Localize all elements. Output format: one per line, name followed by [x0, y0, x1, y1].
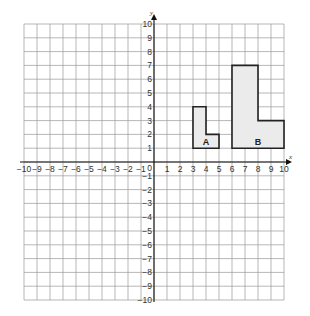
x-tick-label: 7: [243, 164, 248, 174]
origin-label: 0: [147, 163, 152, 173]
x-tick-label: 2: [178, 164, 183, 174]
x-tick-label: −10: [17, 164, 32, 174]
x-tick-label: −7: [58, 164, 68, 174]
shape-label-a: A: [203, 137, 210, 147]
coordinate-plane: AB xy −10−9−8−7−6−5−4−3−2−112345678910−1…: [0, 0, 310, 316]
x-tick-label: −6: [71, 164, 81, 174]
y-tick-label: 6: [147, 74, 152, 84]
y-tick-label: 7: [147, 60, 152, 70]
x-tick-label: 9: [269, 164, 274, 174]
x-tick-label: 5: [217, 164, 222, 174]
x-tick-label: −5: [84, 164, 94, 174]
x-tick-label: 3: [191, 164, 196, 174]
x-tick-label: −4: [97, 164, 107, 174]
x-tick-label: −9: [32, 164, 42, 174]
y-tick-label: 2: [147, 129, 152, 139]
y-tick-label: −2: [142, 185, 152, 195]
shape-label-b: B: [255, 137, 262, 147]
x-tick-label: −2: [123, 164, 133, 174]
y-tick-label: −8: [142, 267, 152, 277]
y-tick-label: 5: [147, 88, 152, 98]
y-tick-label: −4: [142, 212, 152, 222]
axes: xy: [20, 9, 293, 302]
y-tick-label: −7: [142, 254, 152, 264]
y-tick-label: 10: [143, 19, 153, 29]
x-tick-label: −3: [110, 164, 120, 174]
y-tick-label: −3: [142, 198, 152, 208]
y-tick-label: −6: [142, 240, 152, 250]
x-tick-label: 6: [230, 164, 235, 174]
x-tick-label: 8: [256, 164, 261, 174]
x-tick-label: 4: [204, 164, 209, 174]
y-tick-label: 8: [147, 47, 152, 57]
y-tick-label: −9: [142, 281, 152, 291]
x-tick-label: 10: [279, 164, 289, 174]
x-tick-label: 1: [165, 164, 170, 174]
y-tick-label: 4: [147, 102, 152, 112]
y-tick-label: 9: [147, 33, 152, 43]
y-tick-label: 1: [147, 143, 152, 153]
x-axis-label: x: [288, 153, 293, 161]
y-tick-label: −10: [138, 295, 153, 305]
x-tick-label: −8: [45, 164, 55, 174]
y-tick-label: 3: [147, 116, 152, 126]
y-tick-label: −5: [142, 226, 152, 236]
